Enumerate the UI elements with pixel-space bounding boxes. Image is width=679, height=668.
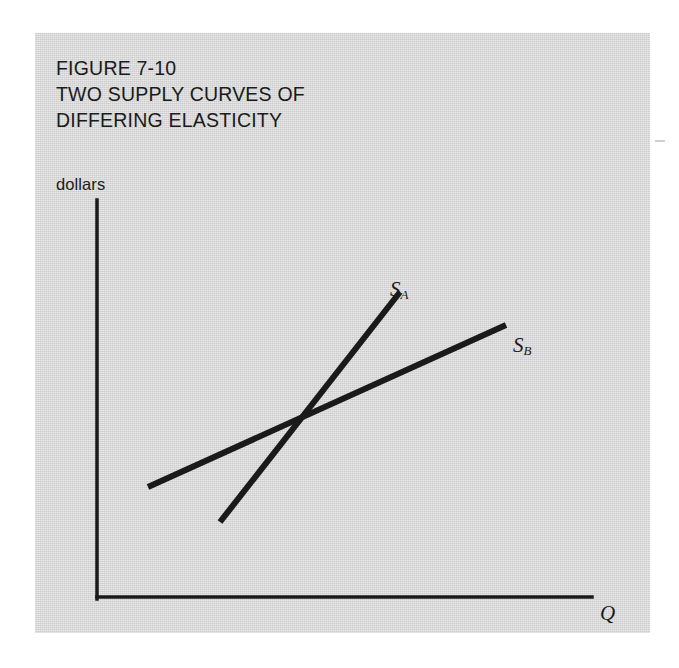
curve-label-sa: SA bbox=[390, 277, 408, 303]
figure-plate: FIGURE 7-10 TWO SUPPLY CURVES OF DIFFERI… bbox=[35, 33, 650, 633]
supply-curve-sb bbox=[148, 325, 506, 487]
plot-area bbox=[35, 33, 650, 633]
curve-label-sa-sub: A bbox=[401, 287, 409, 302]
x-axis-label: Q bbox=[600, 601, 615, 626]
curve-label-sb: SB bbox=[513, 333, 531, 359]
figure-root: FIGURE 7-10 TWO SUPPLY CURVES OF DIFFERI… bbox=[0, 0, 679, 668]
curve-label-sb-sub: B bbox=[524, 343, 532, 358]
supply-curve-sa bbox=[220, 292, 400, 522]
curve-label-sb-base: S bbox=[513, 333, 524, 357]
page-edge-mark bbox=[655, 140, 665, 142]
curve-label-sa-base: S bbox=[390, 277, 401, 301]
